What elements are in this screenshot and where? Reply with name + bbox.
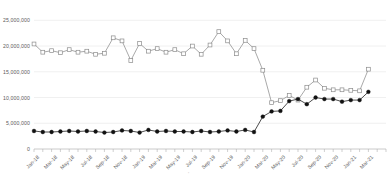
data-point [243, 128, 247, 132]
data-point [59, 130, 63, 134]
data-point [120, 39, 124, 43]
data-point [314, 96, 318, 100]
data-point [252, 130, 256, 134]
data-point [243, 38, 247, 42]
data-point [32, 129, 36, 133]
data-point [85, 49, 89, 53]
data-point [217, 130, 221, 134]
data-point [147, 128, 151, 132]
data-point [208, 130, 212, 134]
data-point [217, 30, 221, 34]
data-point [296, 97, 300, 101]
data-point [358, 89, 362, 93]
data-point [155, 47, 159, 51]
data-point [235, 130, 239, 134]
data-point [367, 67, 371, 71]
data-point [287, 99, 291, 103]
data-point [261, 115, 265, 119]
chart-plot-area [0, 0, 390, 180]
data-point [111, 36, 115, 40]
data-point [76, 50, 80, 54]
data-point [67, 129, 71, 133]
data-point [235, 52, 239, 56]
data-point [279, 99, 283, 103]
data-point [270, 110, 274, 114]
data-point [120, 129, 124, 133]
data-point [103, 51, 107, 55]
data-point [340, 100, 344, 104]
series-filled-circle [32, 90, 370, 134]
data-point [314, 78, 318, 82]
data-point [129, 59, 133, 63]
data-point [226, 129, 230, 133]
data-point [67, 48, 71, 52]
data-point [138, 42, 142, 46]
data-point [305, 85, 309, 89]
data-point [226, 39, 230, 43]
data-point [261, 68, 265, 72]
data-point [252, 47, 256, 51]
data-point [349, 88, 353, 92]
data-point [129, 129, 133, 133]
data-point [367, 90, 371, 94]
data-point [323, 86, 327, 90]
data-point [270, 101, 274, 105]
data-point [164, 50, 168, 54]
data-point [191, 130, 195, 134]
line-chart: 05,000,00010,000,00015,000,00020,000,000… [0, 0, 390, 180]
data-point [50, 130, 54, 134]
data-point [305, 102, 309, 106]
data-point [85, 129, 89, 133]
data-point [76, 130, 80, 134]
y-axis-label: 10,000,000 [0, 95, 30, 101]
data-point [349, 98, 353, 102]
y-axis-label: 15,000,000 [0, 69, 30, 75]
data-point [323, 97, 327, 101]
data-point [164, 129, 168, 133]
data-point [41, 50, 45, 54]
data-point [138, 131, 142, 135]
data-point [331, 88, 335, 92]
footnote-mark: ▪ [188, 171, 189, 175]
data-point [50, 49, 54, 53]
data-point [358, 98, 362, 102]
data-point [199, 129, 203, 133]
data-point [182, 130, 186, 134]
data-point [147, 49, 151, 53]
y-axis-label: 20,000,000 [0, 43, 30, 49]
data-point [331, 97, 335, 101]
data-point [94, 52, 98, 56]
data-point [340, 88, 344, 92]
y-axis-label: 0 [0, 146, 30, 152]
data-point [199, 52, 203, 56]
y-axis-label: 5,000,000 [0, 120, 30, 126]
data-point [173, 48, 177, 52]
data-point [173, 130, 177, 134]
series-line [34, 32, 368, 103]
data-point [59, 51, 63, 55]
data-point [287, 94, 291, 98]
series-line [34, 92, 368, 133]
data-point [191, 44, 195, 48]
data-point [279, 109, 283, 113]
data-point [103, 131, 107, 135]
data-point [32, 42, 36, 46]
data-point [41, 130, 45, 134]
series-open-square [32, 30, 370, 105]
y-axis-label: 25,000,000 [0, 17, 30, 23]
data-point [155, 130, 159, 134]
data-point [182, 52, 186, 56]
data-point [94, 130, 98, 134]
data-point [208, 43, 212, 47]
data-point [111, 130, 115, 134]
